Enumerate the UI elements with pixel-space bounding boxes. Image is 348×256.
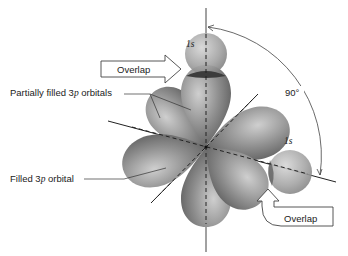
s-orbital-right-label: 1s	[284, 136, 293, 146]
filled-label: Filled 3p orbital	[10, 173, 74, 184]
orbital-diagram: 90° 1s 1s Overlap Overlap Partially fill…	[0, 0, 348, 256]
partially-filled-label: Partially filled 3p orbitals	[10, 87, 112, 98]
s-orbital-top-label: 1s	[186, 39, 195, 49]
overlap-label-top: Overlap	[117, 64, 150, 75]
nucleus	[204, 145, 207, 148]
overlap-label-right: Overlap	[284, 213, 317, 224]
s-orbital-right	[268, 150, 312, 194]
angle-label: 90°	[285, 87, 300, 98]
angle-arrowhead-right	[317, 169, 322, 175]
